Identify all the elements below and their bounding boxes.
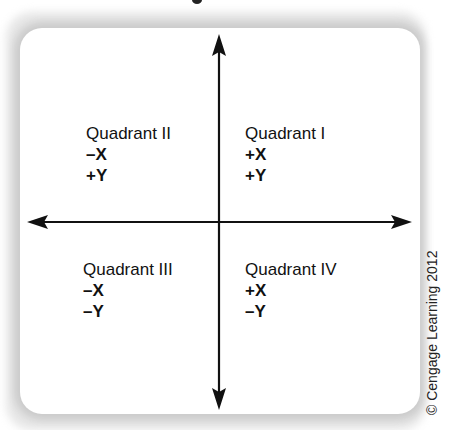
quadrant-name: Quadrant III xyxy=(83,260,173,279)
y-sign: –Y xyxy=(83,301,173,322)
x-sign: –X xyxy=(83,280,173,301)
quadrant-iv-label: Quadrant IV +X –Y xyxy=(245,259,337,322)
x-sign: –X xyxy=(86,144,171,165)
quadrant-iii-label: Quadrant III –X –Y xyxy=(83,259,173,322)
y-sign: +Y xyxy=(245,165,325,186)
y-sign: +Y xyxy=(86,165,171,186)
x-sign: +X xyxy=(245,144,325,165)
quadrant-name: Quadrant II xyxy=(86,124,171,143)
quadrant-i-label: Quadrant I +X +Y xyxy=(245,123,325,186)
x-sign: +X xyxy=(245,280,337,301)
y-sign: –Y xyxy=(245,301,337,322)
copyright-credit: © Cengage Learning 2012 xyxy=(424,251,440,415)
quadrant-name: Quadrant IV xyxy=(245,260,337,279)
quadrant-name: Quadrant I xyxy=(245,124,325,143)
coordinate-axes xyxy=(0,0,454,430)
quadrant-ii-label: Quadrant II –X +Y xyxy=(86,123,171,186)
